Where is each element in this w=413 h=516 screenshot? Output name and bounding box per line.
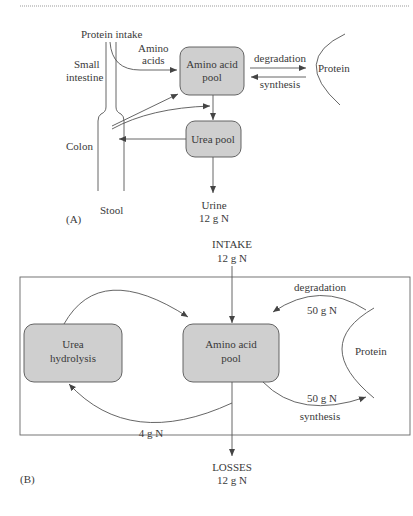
degradation-label-b: degradation [294,281,346,293]
panel-b: INTAKE 12 g N Urea hydrolysis Amino acid… [20,238,410,486]
panel-b-label: (B) [20,473,35,486]
degradation-label: degradation [254,52,306,64]
panel-a: Protein intake Amino acids Small intesti… [66,28,350,226]
recycle-amount: 4 g N [139,427,164,439]
amino-acids-label-2: acids [142,54,165,66]
small-intestine-label: Small [74,58,100,70]
losses-label: LOSSES [212,461,252,473]
panel-a-label: (A) [66,213,82,226]
amino-acid-pool-label: Amino acid [186,58,238,70]
protein-intake-label: Protein intake [81,28,143,40]
synthesis-label: synthesis [260,78,300,90]
urea-hydrolysis-label-2: hydrolysis [50,352,96,364]
nitrogen-flux-diagram: Protein intake Amino acids Small intesti… [0,0,413,516]
synthesis-amount: 50 g N [307,392,337,404]
urine-amount: 12 g N [199,212,229,224]
amino-acids-label: Amino [138,42,169,54]
recycle-arrow [69,384,232,423]
urine-label: Urine [201,199,226,211]
amino-acid-pool-label-b: Amino acid [205,338,257,350]
stool-label: Stool [100,204,123,216]
urea-pool-label: Urea pool [191,133,235,145]
hydrolysis-to-pool-arrow [64,290,188,324]
small-intestine-label-2: intestine [66,71,103,83]
degradation-amount: 50 g N [307,304,337,316]
intake-label: INTAKE [212,238,252,250]
colon-label: Colon [66,140,93,152]
protein-label-b: Protein [355,345,387,357]
synthesis-label-b: synthesis [300,410,340,422]
protein-label: Protein [318,62,350,74]
intake-amount: 12 g N [217,252,247,264]
losses-amount: 12 g N [217,474,247,486]
urea-hydrolysis-label: Urea [62,338,83,350]
amino-acid-pool-label-b-2: pool [221,352,241,364]
amino-acid-pool-label-2: pool [202,71,222,83]
